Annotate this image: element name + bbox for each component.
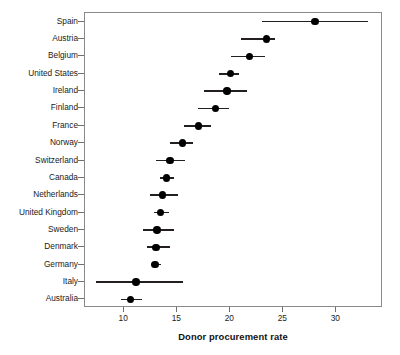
y-axis-label-belgium: Belgium [48,51,78,59]
y-axis-label-denmark: Denmark [44,242,78,250]
x-axis-tick-label: 25 [278,314,287,322]
y-axis-label-canada: Canada [49,173,78,181]
y-axis-label-austria: Austria [52,34,78,42]
data-point-marker [132,278,140,286]
data-point-marker [163,174,171,182]
x-axis-tick-label: 30 [331,314,340,322]
x-axis-tick-label: 20 [225,314,234,322]
data-point-marker [246,53,254,61]
y-axis-label-united-states: United States [28,69,78,77]
y-axis-label-norway: Norway [50,138,78,146]
y-axis-label-spain: Spain [57,17,78,25]
data-point-marker [127,296,135,304]
data-point-marker [311,18,319,26]
x-axis-title: Donor procurement rate [84,331,382,342]
donor-procurement-rate-figure: SpainAustriaBelgiumUnited StatesIrelandF… [0,0,400,355]
data-point-marker [212,105,220,113]
y-axis-label-australia: Australia [46,294,78,302]
x-axis-tick [176,307,177,312]
x-axis-tick-label: 15 [172,314,181,322]
data-point-marker [153,226,161,234]
y-axis-label-netherlands: Netherlands [33,190,78,198]
x-axis-tick [229,307,230,312]
y-axis-label-france: France [52,121,78,129]
data-point-marker [223,87,231,95]
x-axis-tick [335,307,336,312]
data-point-marker [152,244,160,252]
data-point-marker [263,35,271,43]
data-point-marker [195,122,203,130]
data-point-marker [227,70,235,78]
data-point-marker [179,139,187,147]
y-axis-label-italy: Italy [63,277,78,285]
data-point-marker [166,157,174,165]
x-axis-tick [282,307,283,312]
plot-area [84,12,382,307]
y-axis-label-united-kingdom: United Kingdom [19,207,78,215]
y-axis-label-ireland: Ireland [53,86,78,94]
y-axis-label-germany: Germany [44,259,78,267]
x-axis-tick-label: 10 [119,314,128,322]
data-point-marker [151,261,159,269]
data-point-marker [159,191,167,199]
x-axis-tick [123,307,124,312]
data-point-marker [157,209,165,217]
y-axis-label-finland: Finland [51,103,78,111]
y-axis-label-switzerland: Switzerland [35,155,78,163]
y-axis-label-sweden: Sweden [48,225,78,233]
